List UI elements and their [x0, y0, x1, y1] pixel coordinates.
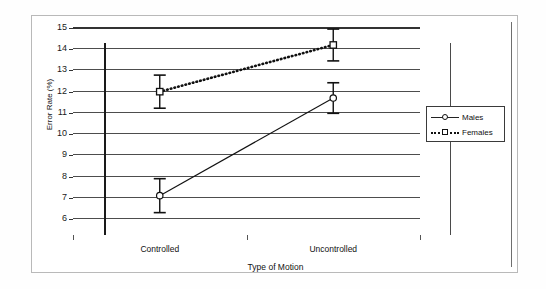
y-tick-label-7: 7 — [47, 193, 67, 202]
gridline-15 — [73, 27, 420, 29]
y-tick-mark-6 — [69, 219, 73, 220]
legend-entry-males: Males — [431, 110, 500, 125]
y-axis-line — [104, 43, 106, 235]
data-point-males-uncontrolled — [330, 95, 336, 101]
error-bar-females-1 — [327, 29, 339, 61]
vertical-divider-line — [511, 22, 512, 267]
y-axis-title: Error Rate (%) — [45, 65, 54, 145]
error-bar-males-0 — [154, 179, 166, 213]
y-tick-mark-10 — [69, 134, 73, 135]
legend-entry-females: Females — [431, 125, 500, 140]
data-point-females-controlled — [157, 88, 163, 94]
y-tick-mark-12 — [69, 92, 73, 93]
gridline-6 — [73, 218, 420, 219]
gridline-12 — [73, 91, 420, 92]
screenshot-root: 6789101112131415 Error Rate (%) Controll… — [0, 0, 546, 289]
x-tick-mark-1 — [247, 235, 248, 240]
x-axis-title: Type of Motion — [32, 262, 519, 272]
x-tick-mark-0 — [73, 235, 74, 240]
gridline-11 — [73, 112, 420, 113]
gridline-8 — [73, 176, 420, 177]
gridline-13 — [73, 69, 420, 70]
x-tick-label-uncontrolled: Uncontrolled — [288, 244, 378, 254]
y-tick-label-15: 15 — [47, 23, 67, 32]
y-tick-mark-8 — [69, 177, 73, 178]
circle-marker-icon — [431, 112, 459, 123]
y-tick-mark-13 — [69, 70, 73, 71]
series-line-females — [160, 45, 334, 92]
gridline-10 — [73, 133, 420, 134]
chart-legend: Males Females — [426, 106, 505, 142]
y-tick-label-14: 14 — [47, 44, 67, 53]
square-marker-icon — [431, 127, 459, 138]
series-males — [154, 83, 340, 213]
gridline-14 — [73, 48, 420, 49]
y-tick-label-6: 6 — [47, 214, 67, 223]
gridline-9 — [73, 154, 420, 155]
error-bar-males-1 — [327, 83, 339, 114]
legend-label-females: Females — [462, 128, 493, 137]
y-tick-mark-9 — [69, 155, 73, 156]
gridline-7 — [73, 197, 420, 198]
y-tick-mark-14 — [69, 49, 73, 50]
x-tick-label-controlled: Controlled — [115, 244, 205, 254]
data-point-males-controlled — [157, 192, 163, 198]
y-tick-mark-11 — [69, 113, 73, 114]
y-tick-mark-7 — [69, 198, 73, 199]
y-tick-mark-15 — [69, 28, 73, 29]
data-point-females-uncontrolled — [330, 42, 336, 48]
chart-container: 6789101112131415 Error Rate (%) Controll… — [31, 15, 518, 273]
x-tick-mark-2 — [420, 235, 421, 240]
y-tick-label-8: 8 — [47, 172, 67, 181]
y-tick-label-9: 9 — [47, 150, 67, 159]
error-bar-females-0 — [154, 75, 166, 108]
legend-label-males: Males — [462, 113, 483, 122]
